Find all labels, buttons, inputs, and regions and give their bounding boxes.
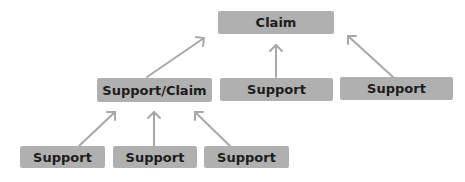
arrow-support-right-to-claim xyxy=(348,36,393,77)
arrow-bottom3-to-support-claim xyxy=(195,112,230,146)
node-support-right: Support xyxy=(340,77,453,100)
node-support-bottom-3: Support xyxy=(204,146,289,168)
node-support-claim: Support/Claim xyxy=(97,78,212,102)
node-support-bottom-2: Support xyxy=(113,146,197,168)
node-claim: Claim xyxy=(218,11,334,34)
node-support-bottom-1: Support xyxy=(20,146,105,168)
arrow-support-claim-to-claim xyxy=(147,37,204,77)
arrow-bottom1-to-support-claim xyxy=(79,112,115,146)
arrow-bottom2-to-support-claim xyxy=(148,112,160,146)
node-support-mid: Support xyxy=(220,78,333,101)
arrow-support-mid-to-claim xyxy=(270,45,282,77)
